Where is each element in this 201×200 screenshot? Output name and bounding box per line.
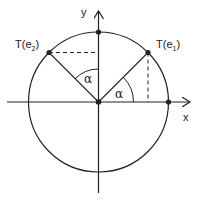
point-T-e2 <box>46 50 51 55</box>
point-e2 <box>96 29 101 34</box>
origin-point <box>96 99 102 105</box>
point-e1 <box>166 99 171 104</box>
angle-label-e1: α <box>115 87 123 101</box>
angle-label-e2: α <box>84 72 92 86</box>
label-T-e2: T(e2) <box>15 38 39 52</box>
point-T-e1 <box>145 50 150 55</box>
x-axis-label: x <box>183 111 189 123</box>
y-axis-label: y <box>81 6 87 18</box>
angle-arc-e1 <box>123 77 133 102</box>
label-T-e1: T(e1) <box>156 38 180 52</box>
rotation-diagram: x y T(e1) T(e2) α α <box>0 0 201 200</box>
